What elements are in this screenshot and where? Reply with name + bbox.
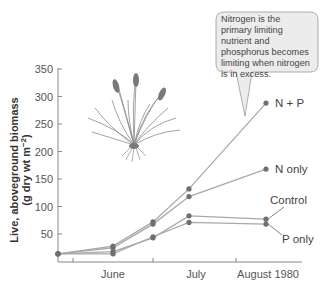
data-point-marker bbox=[186, 186, 191, 191]
p-only-leader-line bbox=[268, 224, 282, 235]
y-tick-200: 200 bbox=[35, 146, 53, 158]
data-point-marker bbox=[150, 234, 155, 239]
data-point-marker bbox=[186, 220, 191, 225]
data-point-marker bbox=[150, 222, 155, 227]
data-point-marker bbox=[263, 101, 268, 106]
series-lines bbox=[58, 103, 266, 254]
data-point-marker bbox=[263, 217, 268, 222]
y-tick-100: 100 bbox=[35, 201, 53, 213]
label-n-plus-p: N + P bbox=[275, 97, 304, 109]
x-tick-august: August 1980 bbox=[237, 268, 299, 280]
y-axis bbox=[58, 68, 62, 262]
svg-text:(g dry wt m−2): (g dry wt m−2) bbox=[19, 134, 32, 206]
grass-plant-illustration bbox=[88, 78, 180, 162]
control-leader-line bbox=[268, 207, 284, 219]
x-tick-july: July bbox=[186, 268, 206, 280]
y-tick-150: 150 bbox=[35, 173, 53, 185]
data-point-marker bbox=[55, 251, 60, 256]
label-p-only: P only bbox=[282, 233, 314, 245]
y-tick-50: 50 bbox=[41, 228, 53, 240]
label-n-only: N only bbox=[275, 163, 308, 175]
svg-text:Live, aboveground biomass: Live, aboveground biomass bbox=[8, 97, 20, 242]
callout-text: Nitrogen is the primary limiting nutrien… bbox=[217, 11, 317, 71]
data-point-marker bbox=[110, 251, 115, 256]
data-point-marker bbox=[186, 213, 191, 218]
y-axis-label: Live, aboveground biomass (g dry wt m−2) bbox=[8, 97, 32, 242]
series-line-n-only bbox=[58, 169, 266, 254]
series-line-control bbox=[58, 216, 266, 254]
y-tick-300: 300 bbox=[35, 91, 53, 103]
data-point-marker bbox=[263, 167, 268, 172]
data-point-marker bbox=[263, 222, 268, 227]
series-line-n-p bbox=[58, 103, 266, 254]
data-point-marker bbox=[186, 194, 191, 199]
label-control: Control bbox=[270, 194, 307, 206]
x-tick-june: June bbox=[101, 268, 125, 280]
x-axis bbox=[58, 258, 302, 262]
y-tick-350: 350 bbox=[35, 63, 53, 75]
y-tick-250: 250 bbox=[35, 118, 53, 130]
